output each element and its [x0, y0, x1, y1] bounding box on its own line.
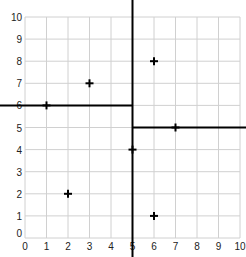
y-tick-label: 3: [16, 167, 22, 178]
y-tick-label: 0: [16, 228, 22, 239]
x-tick-label: 4: [108, 241, 114, 252]
split-lines: [0, 0, 246, 257]
plus-marker-icon: [64, 190, 72, 198]
x-tick-label: 1: [44, 241, 50, 252]
plus-marker-icon: [150, 57, 158, 65]
plus-marker-icon: [150, 212, 158, 220]
x-tick-label: 6: [151, 241, 157, 252]
x-tick-label: 9: [216, 241, 222, 252]
y-tick-label: 1: [16, 211, 22, 222]
scatter-chart: 012345678910012345678910: [0, 0, 246, 257]
y-tick-label: 5: [16, 123, 22, 134]
y-tick-label: 4: [16, 145, 22, 156]
y-tick-label: 9: [16, 34, 22, 45]
plus-marker-icon: [172, 124, 180, 132]
x-tick-label: 2: [65, 241, 71, 252]
y-tick-label: 10: [11, 12, 23, 23]
x-tick-label: 7: [173, 241, 179, 252]
x-tick-label: 8: [194, 241, 200, 252]
y-tick-label: 2: [16, 189, 22, 200]
plus-marker-icon: [129, 146, 137, 154]
y-tick-label: 7: [16, 78, 22, 89]
plus-marker-icon: [86, 79, 94, 87]
plus-marker-icon: [43, 101, 51, 109]
y-tick-label: 8: [16, 56, 22, 67]
x-tick-label: 10: [234, 241, 246, 252]
x-tick-label: 0: [22, 241, 28, 252]
x-tick-label: 3: [87, 241, 93, 252]
